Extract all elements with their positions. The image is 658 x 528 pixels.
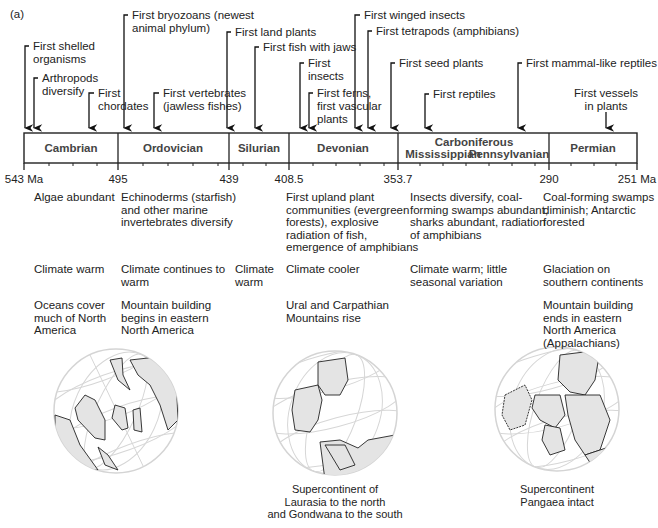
desc-life-ordovician: Echinoderms (starfish) and other marine … (121, 191, 236, 229)
desc-geology-cambrian: Oceans cover much of North America (34, 299, 106, 337)
age-495: 495 (108, 173, 127, 185)
event-arrow-first-shelled-organisms (25, 46, 29, 128)
event-label-first-vessels-in-plants: First vesselsin plants (574, 87, 638, 112)
event-arrow-first-tetrapods (368, 31, 372, 128)
event-label-first-shelled-organisms: First shelledorganisms (33, 40, 95, 65)
event-arrow-first-insects (300, 63, 304, 128)
period-carboniferous: Carboniferous (435, 136, 514, 148)
caption-permian-globe: Supercontinent Pangaea intact (497, 483, 617, 508)
event-arrow-first-mammal-like-reptiles (518, 63, 522, 128)
boundary-ages: 543 Ma 495 439 408.5 353.7 290 251 Ma (5, 173, 657, 185)
event-arrow-first-chordates (89, 93, 94, 128)
age-251: 251 Ma (618, 173, 657, 185)
period-silurian: Silurian (238, 142, 280, 154)
event-label-first-reptiles: First reptiles (433, 88, 496, 100)
period-cambrian: Cambrian (44, 142, 97, 154)
desc-geology-permian: Mountain building ends in eastern North … (543, 299, 633, 349)
age-353-7: 353.7 (384, 173, 413, 185)
period-ordovician: Ordovician (143, 142, 203, 154)
desc-climate-silurian: Climate warm (235, 263, 274, 288)
period-devonian: Devonian (317, 142, 369, 154)
event-label-first-seed-plants: First seed plants (399, 57, 484, 69)
early-paleozoic-globe (27, 322, 207, 502)
event-label-first-winged-insects: First winged insects (364, 9, 465, 21)
age-543: 543 Ma (5, 173, 44, 185)
age-439: 439 (219, 173, 238, 185)
event-arrow-first-seed-plants (391, 63, 395, 128)
desc-geology-ordovician: Mountain building begins in eastern Nort… (121, 299, 211, 337)
desc-life-permian: Coal-forming swamps diminish; Antarctic … (543, 191, 654, 229)
desc-life-cambrian: Algae abundant (34, 191, 115, 204)
event-arrow-arthropods-diversify (34, 78, 38, 128)
event-label-first-vertebrates: First vertebrates(jawless fishes) (163, 87, 246, 112)
desc-life-carboniferous: Insects diversify, coal- forming swamps … (410, 191, 548, 241)
age-408-5: 408.5 (275, 173, 304, 185)
desc-climate-ordovician: Climate continues to warm (121, 263, 225, 288)
permian-globe (475, 335, 644, 482)
desc-climate-carboniferous: Climate warm; little seasonal variation (410, 263, 507, 288)
desc-life-devonian: First upland plant communities (evergree… (286, 191, 418, 254)
desc-climate-permian: Glaciation on southern continents (543, 263, 643, 288)
event-label-first-insects: Firstinsects (308, 57, 344, 82)
event-label-first-ferns: First ferns,first vascularplants (317, 87, 382, 125)
desc-climate-cambrian: Climate warm (34, 263, 104, 276)
age-290: 290 (539, 173, 558, 185)
caption-devonian-globe: Supercontinent of Laurasia to the north … (265, 483, 405, 521)
event-labels: First shelledorganisms Arthropodsdiversi… (33, 9, 657, 125)
period-permian: Permian (570, 142, 615, 154)
event-arrow-first-vertebrates (154, 93, 159, 128)
epoch-pennsylvanian: Pennsylvanian (469, 148, 550, 160)
event-label-first-tetrapods: First tetrapods (amphibians) (376, 25, 519, 37)
event-arrow-first-fish-with-jaws (255, 47, 259, 128)
event-arrow-first-reptiles (425, 94, 429, 128)
devonian-globe (252, 338, 420, 487)
event-arrow-first-land-plants (227, 32, 231, 128)
desc-geology-devonian: Ural and Carpathian Mountains rise (286, 299, 389, 324)
event-label-first-mammal-like-reptiles: First mammal-like reptiles (526, 57, 657, 69)
event-label-first-fish-with-jaws: First fish with jaws (263, 41, 357, 53)
desc-climate-devonian: Climate cooler (286, 263, 360, 276)
event-label-first-land-plants: First land plants (235, 26, 316, 38)
event-arrow-first-ferns (309, 93, 313, 128)
